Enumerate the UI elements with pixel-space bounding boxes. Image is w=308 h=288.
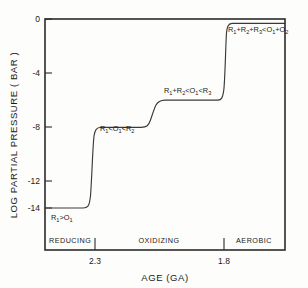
stage3-d-sub: 3 bbox=[208, 90, 211, 96]
y-tick-label-minus14: -14 bbox=[28, 203, 41, 213]
y-tick-label-minus12: -12 bbox=[28, 176, 41, 186]
x-tick-label-1-8: 1.8 bbox=[218, 256, 230, 266]
figure-container: 0 -4 -8 -12 -14 LOG PARTIAL PRESSURE ( B… bbox=[0, 0, 308, 288]
stage2-c-sub: 2 bbox=[131, 128, 134, 134]
y-tick-label-minus8: -8 bbox=[32, 122, 40, 132]
era-label-aerobic: AEROBIC bbox=[236, 236, 272, 245]
era-label-reducing: REDUCING bbox=[49, 236, 91, 245]
y-axis-title: LOG PARTIAL PRESSURE ( BAR ) bbox=[8, 52, 19, 219]
y-tick-label-0: 0 bbox=[35, 14, 40, 24]
annotation-stage-3: R1+R2<O1<R3 bbox=[164, 86, 211, 96]
stage1-o-sub: 1 bbox=[70, 217, 73, 223]
x-tick-label-2-3: 2.3 bbox=[89, 256, 101, 266]
x-axis-title: AGE (GA) bbox=[141, 272, 189, 283]
era-label-oxidizing: OXIDIZING bbox=[138, 236, 179, 245]
annotation-stage-1: R1>O1 bbox=[51, 213, 73, 223]
y-tick-label-minus4: -4 bbox=[32, 68, 40, 78]
stage4-e-sub: 2 bbox=[285, 29, 288, 35]
plot-frame bbox=[45, 19, 285, 250]
annotation-stage-2: R1<O1<R2 bbox=[100, 124, 134, 134]
oxygen-evolution-chart: 0 -4 -8 -12 -14 LOG PARTIAL PRESSURE ( B… bbox=[0, 0, 308, 288]
annotation-stage-4: R1+R2+R3<O1+O2 bbox=[228, 25, 288, 35]
oxygen-curve bbox=[45, 23, 285, 208]
y-axis-tickmarks bbox=[45, 19, 52, 208]
